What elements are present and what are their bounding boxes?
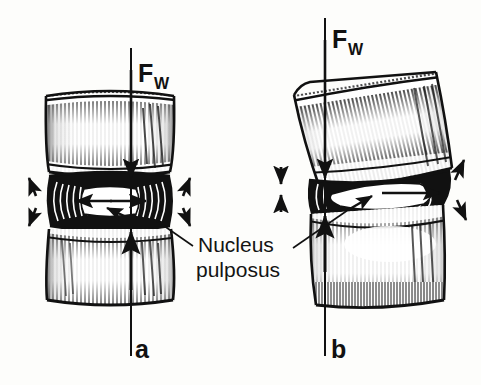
- nucleus-pulposus-label-line2: pulposus: [196, 258, 280, 281]
- panel-b-force-label-subscript: W: [348, 41, 364, 58]
- panel-a-upper-vertebral-body: [40, 91, 182, 176]
- panel-a-force-label-subscript: W: [154, 75, 170, 92]
- panel-a-force-label-main: F: [138, 59, 153, 87]
- anatomical-illustration: F W a: [0, 0, 481, 385]
- panel-b-letter: b: [331, 335, 346, 363]
- panel-a-letter: a: [135, 335, 150, 363]
- figure-root: F W a: [0, 0, 481, 385]
- panel-a-lower-vertebral-body: [40, 225, 185, 315]
- nucleus-pulposus-label-line1: Nucleus: [198, 233, 274, 256]
- panel-a-intervertebral-disc: [47, 172, 173, 231]
- panel-b-force-label-main: F: [332, 25, 347, 53]
